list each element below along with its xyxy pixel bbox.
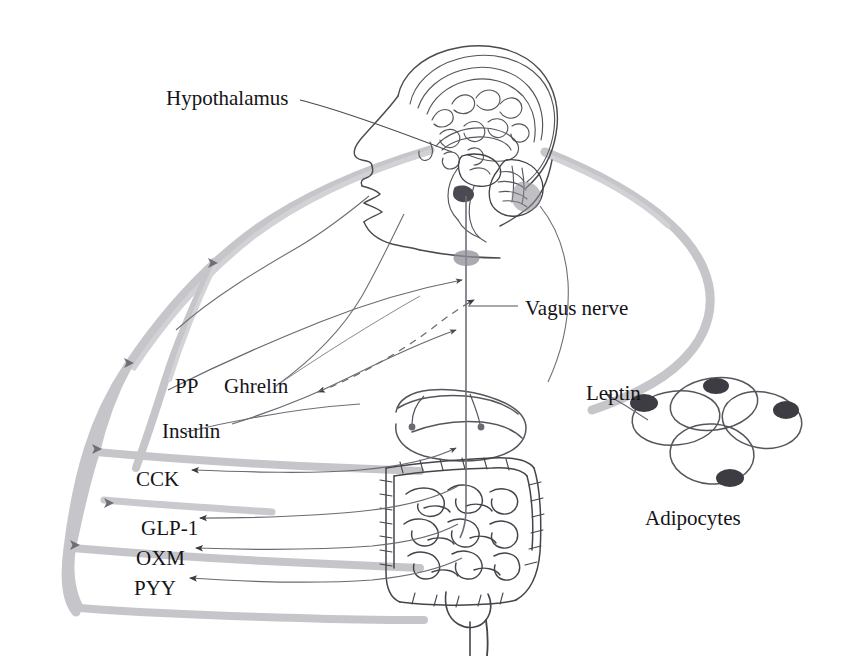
- label-insulin: Insulin: [162, 421, 220, 442]
- label-hypothalamus: Hypothalamus: [166, 88, 288, 109]
- adipocyte-cluster: [629, 372, 806, 487]
- figure-canvas: Hypothalamus Vagus nerve PP Ghrelin Lept…: [0, 0, 847, 656]
- label-ghrelin: Ghrelin: [224, 376, 288, 397]
- intestines: [380, 458, 544, 656]
- label-cck: CCK: [136, 469, 179, 490]
- head-profile: [354, 46, 557, 258]
- label-vagus-nerve: Vagus nerve: [525, 298, 628, 319]
- brain-section: [410, 55, 555, 242]
- label-glp1: GLP-1: [141, 518, 198, 539]
- label-pp: PP: [175, 376, 198, 397]
- anatomy-illustration: [0, 0, 847, 656]
- label-adipocytes: Adipocytes: [645, 508, 741, 529]
- label-oxm: OXM: [136, 548, 185, 569]
- stomach: [396, 389, 526, 461]
- label-leptin: Leptin: [586, 383, 641, 404]
- label-pyy: PYY: [134, 578, 176, 599]
